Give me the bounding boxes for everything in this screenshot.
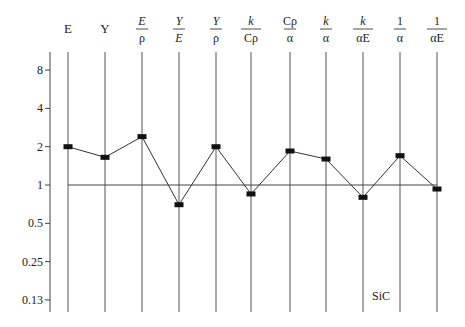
data-marker bbox=[286, 149, 295, 154]
category-label: E bbox=[64, 21, 72, 36]
category-label-numerator: 1 bbox=[434, 14, 440, 28]
category-label-numerator: k bbox=[248, 14, 254, 28]
category-label-numerator: k bbox=[360, 14, 366, 28]
category-label-denominator: E bbox=[174, 31, 183, 45]
category-label-denominator: ρ bbox=[139, 31, 145, 45]
data-marker bbox=[433, 187, 442, 192]
category-label-numerator: 1 bbox=[397, 14, 403, 28]
y-tick-label: 1 bbox=[37, 178, 43, 192]
category-label-numerator: E bbox=[137, 14, 146, 28]
chart-canvas: 84210.50.250.13EYEρYEYρkCρCραkαkαE1α1αES… bbox=[0, 0, 465, 327]
category-label-denominator: αE bbox=[356, 31, 370, 45]
category-label-numerator: Cρ bbox=[283, 14, 297, 28]
y-tick-label: 4 bbox=[37, 101, 43, 115]
category-label-denominator: ρ bbox=[213, 31, 219, 45]
data-marker bbox=[322, 157, 331, 162]
data-marker bbox=[212, 144, 221, 149]
category-label-numerator: Y bbox=[213, 14, 221, 28]
category-label-denominator: α bbox=[287, 31, 294, 45]
y-tick-label: 0.13 bbox=[22, 293, 43, 307]
data-marker bbox=[359, 195, 368, 200]
category-label-denominator: Cρ bbox=[244, 31, 258, 45]
category-label-numerator: Y bbox=[176, 14, 184, 28]
y-tick-label: 8 bbox=[37, 63, 43, 77]
data-marker bbox=[175, 202, 184, 207]
data-marker bbox=[64, 144, 73, 149]
category-label-denominator: αE bbox=[430, 31, 444, 45]
data-marker bbox=[247, 191, 256, 196]
y-tick-label: 0.25 bbox=[22, 255, 43, 269]
category-label: Y bbox=[100, 21, 110, 36]
category-label-denominator: α bbox=[323, 31, 330, 45]
y-tick-label: 2 bbox=[37, 140, 43, 154]
category-label-numerator: k bbox=[323, 14, 329, 28]
data-marker bbox=[101, 155, 110, 160]
category-label-denominator: α bbox=[397, 31, 404, 45]
data-marker bbox=[138, 134, 147, 139]
material-annotation: SiC bbox=[372, 289, 390, 303]
y-tick-label: 0.5 bbox=[28, 216, 43, 230]
data-marker bbox=[396, 153, 405, 158]
